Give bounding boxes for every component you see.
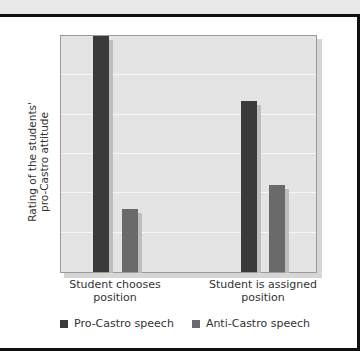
category-label-chooses-line1: Student chooses [55,278,175,291]
caption-strip [0,0,360,14]
y-axis-label: Rating of the students' pro-Castro attit… [26,82,50,242]
bar-pro-assigned [241,101,257,272]
legend-label-anti: Anti-Castro speech [206,317,310,330]
bar-shadow [285,189,289,273]
bar-shadow [138,213,142,273]
category-label-assigned-line2: position [203,291,323,304]
bar-anti-assigned [269,185,285,272]
y-axis-label-line2: pro-Castro attitude [38,82,50,242]
category-label-assigned-line1: Student is assigned [203,278,323,291]
plot-area [60,35,317,273]
category-label-assigned: Student is assigned position [203,278,323,304]
legend-swatch-anti-icon [192,320,200,328]
legend: Pro-Castro speech Anti-Castro speech [60,317,310,330]
category-label-chooses-line2: position [55,291,175,304]
bar-pro-chooses [93,36,109,272]
category-label-chooses: Student chooses position [55,278,175,304]
legend-item-pro: Pro-Castro speech [60,317,174,330]
legend-item-anti: Anti-Castro speech [192,317,310,330]
bar-shadow [109,40,113,273]
legend-label-pro: Pro-Castro speech [74,317,174,330]
bar-anti-chooses [122,209,138,272]
bar-shadow [257,105,261,273]
legend-swatch-pro-icon [60,320,68,328]
y-axis-label-line1: Rating of the students' [26,82,38,242]
